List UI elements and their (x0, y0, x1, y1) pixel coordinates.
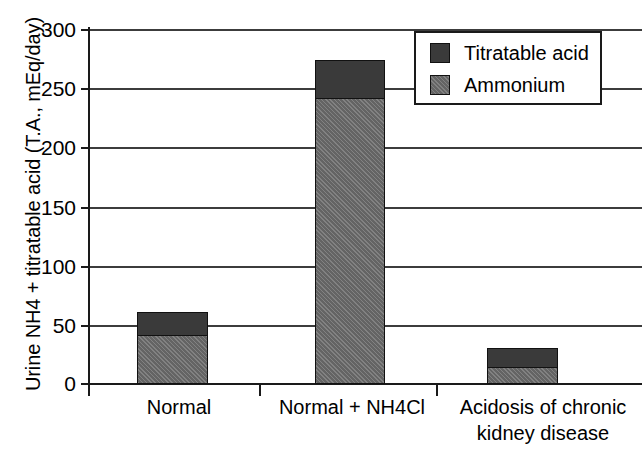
x-category-label-acidosis-line1: Acidosis of chronic (460, 396, 627, 418)
x-tick-mark-2 (436, 385, 438, 396)
x-tick-mark-start (88, 385, 90, 396)
y-tick-mark-150 (81, 207, 89, 209)
bar-acidosis-chronic-kidney-disease[interactable] (487, 348, 558, 384)
bar-normal-nh4cl[interactable] (315, 60, 385, 384)
legend-item-ammonium[interactable]: Ammonium (430, 73, 565, 97)
y-tick-mark-50 (81, 325, 89, 327)
y-tick-label-50: 50 (4, 315, 76, 336)
bar-normal-titratable-acid[interactable] (137, 312, 208, 336)
y-tick-mark-250 (81, 88, 89, 90)
bar-normal-nh4cl-titratable-acid[interactable] (315, 60, 385, 99)
bar-normal-ammonium[interactable] (137, 335, 208, 384)
y-tick-label-200: 200 (4, 137, 76, 158)
bar-normal-nh4cl-ammonium[interactable] (315, 98, 385, 384)
legend-swatch-ammonium-icon (430, 75, 450, 95)
x-category-label-normal: Normal (104, 394, 254, 420)
y-tick-label-300: 300 (4, 19, 76, 40)
x-category-label-normal-line1: Normal (147, 396, 211, 418)
bar-acidosis-ammonium[interactable] (487, 367, 558, 384)
legend-item-titratable-acid[interactable]: Titratable acid (430, 41, 589, 65)
x-category-label-normal-nh4cl-line1: Normal + NH4Cl (279, 396, 425, 418)
legend-swatch-titratable-acid-icon (430, 43, 450, 63)
y-tick-mark-200 (81, 147, 89, 149)
legend-label-ammonium: Ammonium (464, 75, 565, 95)
bar-acidosis-titratable-acid[interactable] (487, 348, 558, 368)
x-category-label-acidosis: Acidosis of chronic kidney disease (444, 394, 642, 446)
y-tick-mark-300 (81, 29, 89, 31)
x-category-label-normal-nh4cl: Normal + NH4Cl (272, 394, 432, 420)
y-tick-label-100: 100 (4, 256, 76, 277)
legend-label-titratable-acid: Titratable acid (464, 43, 589, 63)
x-tick-mark-1 (259, 385, 261, 396)
y-tick-label-0: 0 (4, 373, 76, 394)
y-tick-label-150: 150 (4, 197, 76, 218)
y-tick-label-250: 250 (4, 78, 76, 99)
legend: Titratable acid Ammonium (414, 31, 602, 105)
y-tick-mark-100 (81, 266, 89, 268)
bar-normal[interactable] (137, 312, 208, 384)
stacked-bar-chart: Urine NH4 + titratable acid (T.A., mEq/d… (0, 0, 642, 453)
x-category-label-acidosis-line2: kidney disease (444, 420, 642, 446)
